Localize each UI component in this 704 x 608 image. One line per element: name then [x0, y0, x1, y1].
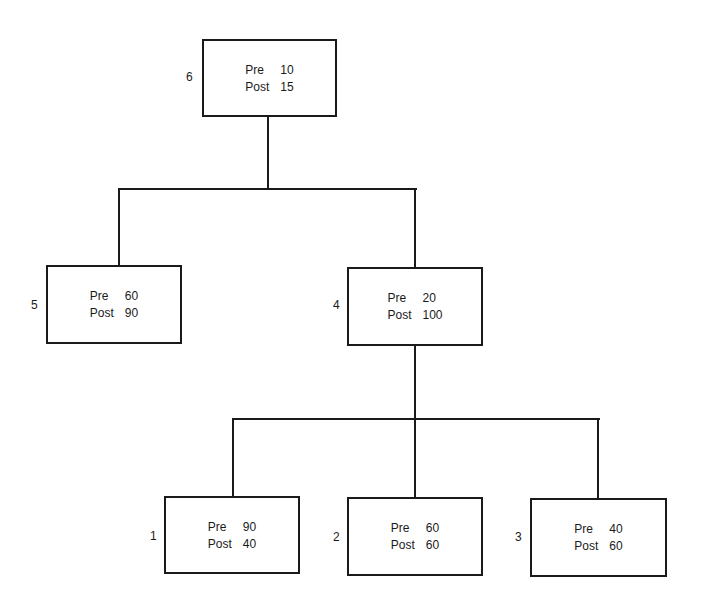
node-1: Pre 90 Post 40	[164, 496, 300, 574]
connector-level2-bar	[233, 418, 600, 420]
post-label: Post	[391, 538, 415, 552]
post-value: 60	[426, 538, 439, 552]
post-label: Post	[245, 80, 269, 94]
pre-value: 40	[609, 522, 622, 536]
node-number: 6	[186, 70, 193, 84]
connector-6-down	[267, 116, 269, 190]
connector-to-5	[118, 188, 120, 266]
pre-value: 90	[243, 520, 256, 534]
pre-value: 10	[280, 63, 293, 77]
node-number: 1	[150, 529, 157, 543]
post-value: 90	[125, 306, 138, 320]
post-label: Post	[90, 306, 114, 320]
post-label: Post	[387, 308, 411, 322]
pre-value: 20	[422, 291, 442, 305]
post-label: Post	[208, 537, 232, 551]
post-label: Post	[574, 539, 598, 553]
connector-to-2	[414, 418, 416, 498]
pre-label: Pre	[391, 521, 415, 535]
pre-label: Pre	[387, 291, 411, 305]
node-4: Pre 20 Post 100	[347, 267, 483, 346]
connector-to-1	[232, 418, 234, 497]
node-number: 5	[31, 298, 38, 312]
node-number: 2	[333, 530, 340, 544]
connector-to-4	[414, 188, 416, 268]
pre-value: 60	[125, 289, 138, 303]
pre-label: Pre	[208, 520, 232, 534]
post-value: 60	[609, 539, 622, 553]
connector-level1-bar	[119, 188, 417, 190]
connector-to-3	[597, 418, 599, 499]
pre-label: Pre	[90, 289, 114, 303]
connector-4-down	[414, 345, 416, 420]
node-3: Pre 40 Post 60	[530, 498, 667, 577]
post-value: 15	[280, 80, 293, 94]
pre-label: Pre	[574, 522, 598, 536]
pre-value: 60	[426, 521, 439, 535]
node-2: Pre 60 Post 60	[347, 497, 483, 576]
node-number: 4	[333, 298, 340, 312]
node-number: 3	[515, 530, 522, 544]
post-value: 40	[243, 537, 256, 551]
node-5: Pre 60 Post 90	[46, 265, 182, 344]
post-value: 100	[422, 308, 442, 322]
pre-label: Pre	[245, 63, 269, 77]
node-6: Pre 10 Post 15	[202, 39, 337, 117]
